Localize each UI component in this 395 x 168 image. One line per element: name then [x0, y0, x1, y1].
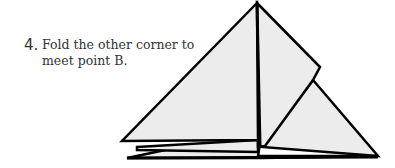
paper-flap-left — [122, 3, 258, 141]
bottom-edge — [127, 157, 378, 158]
origami-fold-diagram — [0, 0, 395, 168]
